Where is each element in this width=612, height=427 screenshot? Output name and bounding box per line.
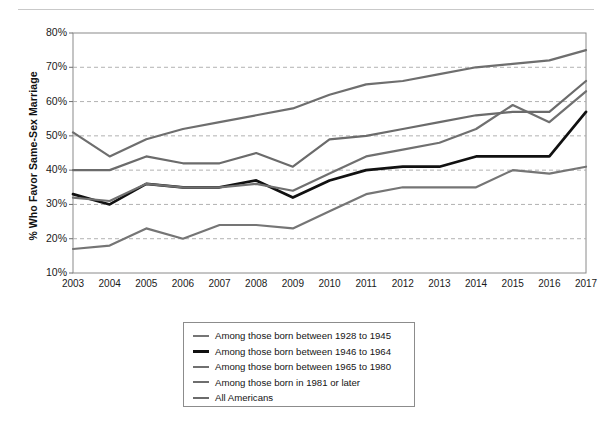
y-tick-label: 50% (27, 129, 67, 141)
figure-container: % Who Favor Same-Sex Marriage 10%20%30%4… (0, 0, 612, 427)
legend-swatch-line-icon (193, 366, 209, 368)
legend-label: All Americans (215, 392, 273, 403)
y-axis-title: % Who Favor Same-Sex Marriage (27, 51, 39, 261)
y-tick-label: 40% (27, 163, 67, 175)
x-tick-label: 2013 (419, 278, 459, 289)
legend-label: Among those born between 1965 to 1980 (215, 361, 391, 372)
x-tick-label: 2006 (163, 278, 203, 289)
y-tick-label: 10% (27, 266, 67, 278)
legend-item[interactable]: Among those born in 1981 or later (184, 375, 414, 391)
x-tick-label: 2017 (566, 278, 606, 289)
x-tick-label: 2012 (383, 278, 423, 289)
x-tick-label: 2007 (200, 278, 240, 289)
x-tick-label: 2003 (53, 278, 93, 289)
x-tick-label: 2016 (529, 278, 569, 289)
x-tick-label: 2015 (493, 278, 533, 289)
chart-legend: Among those born between 1928 to 1945Amo… (183, 322, 415, 407)
legend-label: Among those born in 1981 or later (215, 377, 360, 388)
plot-frame (73, 33, 586, 273)
legend-item[interactable]: Among those born between 1928 to 1945 (184, 328, 414, 344)
legend-swatch-line-icon (193, 350, 209, 353)
legend-item[interactable]: All Americans (184, 390, 414, 406)
x-tick-label: 2011 (346, 278, 386, 289)
legend-swatch-line-icon (193, 397, 209, 399)
x-tick-label: 2004 (90, 278, 130, 289)
y-tick-label: 80% (27, 26, 67, 38)
y-tick-label: 60% (27, 95, 67, 107)
x-tick-label: 2008 (236, 278, 276, 289)
legend-swatch-line-icon (193, 335, 209, 337)
x-tick-label: 2009 (273, 278, 313, 289)
x-tick-label: 2010 (310, 278, 350, 289)
legend-item[interactable]: Among those born between 1946 to 1964 (184, 344, 414, 360)
legend-label: Among those born between 1928 to 1945 (215, 330, 391, 341)
x-tick-label: 2005 (126, 278, 166, 289)
legend-swatch-line-icon (193, 381, 209, 383)
y-tick-label: 70% (27, 60, 67, 72)
legend-item[interactable]: Among those born between 1965 to 1980 (184, 359, 414, 375)
y-tick-label: 30% (27, 197, 67, 209)
legend-label: Among those born between 1946 to 1964 (215, 346, 391, 357)
y-tick-label: 20% (27, 232, 67, 244)
x-tick-label: 2014 (456, 278, 496, 289)
